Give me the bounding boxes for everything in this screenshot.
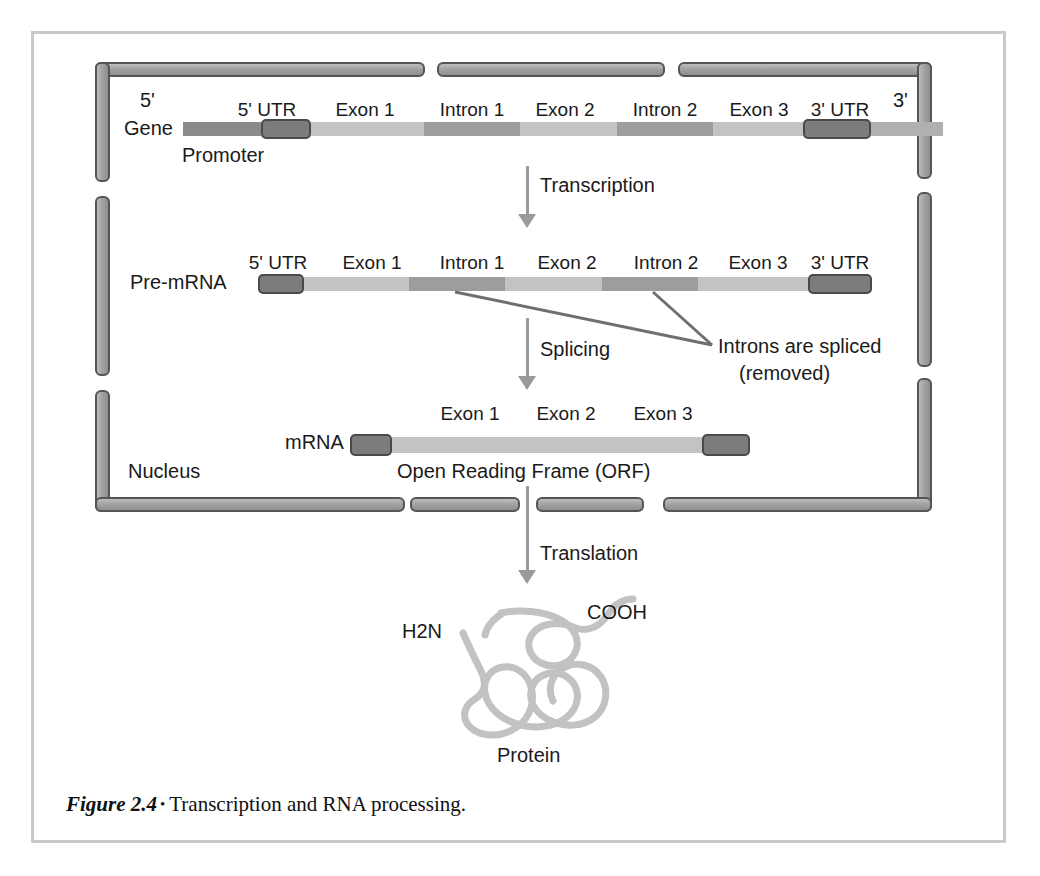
pre-mrna-segment-exon-2 — [505, 277, 602, 291]
nuclear-membrane-top-left — [95, 62, 425, 77]
gene-segment-exon-1 — [311, 122, 424, 136]
nuclear-membrane-right-mid — [917, 192, 932, 367]
nuclear-membrane-right-lower — [917, 378, 932, 512]
transcription-arrow-label: Transcription — [540, 175, 655, 195]
pre-mrna-segment-intron-1 — [409, 277, 505, 291]
pre-mrna-label-intron-2: Intron 2 — [618, 253, 714, 272]
pre-mrna-label-exon-3: Exon 3 — [713, 253, 803, 272]
mrna-segment-exon-3 — [624, 437, 702, 453]
translation-arrow-label: Translation — [540, 543, 638, 563]
gene-label-five-utr: 5' UTR — [227, 100, 307, 119]
nuclear-membrane-bottom-d — [663, 497, 932, 512]
figure-caption: Figure 2.4•Transcription and RNA process… — [66, 792, 966, 817]
splicing-arrow — [517, 318, 537, 390]
gene-five-prime-label: 5' — [140, 90, 155, 110]
pre-mrna-segment-exon-3 — [698, 277, 808, 291]
gene-segment-intron-2 — [617, 122, 713, 136]
mrna-segment-exon-2 — [532, 437, 624, 453]
nuclear-membrane-left-mid — [95, 196, 110, 376]
nucleus-label: Nucleus — [128, 461, 200, 481]
pre-mrna-label-exon-2: Exon 2 — [522, 253, 612, 272]
pre-mrna-segment-three-utr — [808, 274, 872, 294]
mrna-segment-exon-1 — [392, 437, 532, 453]
gene-label-intron-1: Intron 1 — [424, 100, 520, 119]
mrna-segment-five-utr — [350, 434, 392, 456]
pre-mrna-segment-exon-1 — [304, 277, 409, 291]
transcription-arrow — [517, 166, 537, 228]
pre-mrna-label-five-utr: 5' UTR — [238, 253, 318, 272]
gene-three-prime-label: 3' — [893, 90, 908, 110]
gene-segment-exon-2 — [520, 122, 617, 136]
orf-label: Open Reading Frame (ORF) — [397, 461, 650, 481]
nuclear-membrane-top-mid — [437, 62, 665, 77]
gene-segment-intron-1 — [424, 122, 520, 136]
mrna-segment-three-utr — [702, 434, 750, 456]
gene-segment-five-utr — [261, 119, 311, 139]
gene-bar — [183, 122, 943, 136]
mrna-bar — [350, 437, 750, 453]
caption-text: Transcription and RNA processing. — [169, 792, 466, 816]
figure-container: Nucleus 5' 3' Gene 5' UTR Exon 1 Intron … — [0, 0, 1040, 876]
splice-note-line-2: (removed) — [739, 363, 830, 383]
gene-segment-downstream — [871, 122, 943, 136]
protein-label: Protein — [497, 745, 560, 765]
gene-row-label: Gene — [124, 118, 173, 138]
protein-chain-icon — [455, 585, 685, 760]
gene-segment-promoter — [183, 122, 261, 136]
nuclear-membrane-bottom-c — [536, 497, 644, 512]
gene-label-three-utr: 3' UTR — [800, 100, 880, 119]
protein-c-terminus-label: COOH — [587, 602, 647, 622]
nuclear-membrane-bottom-b — [410, 497, 520, 512]
mrna-label-exon-2: Exon 2 — [521, 404, 611, 423]
gene-label-exon-2: Exon 2 — [520, 100, 610, 119]
pre-mrna-segment-intron-2 — [602, 277, 698, 291]
gene-label-exon-3: Exon 3 — [714, 100, 804, 119]
nuclear-membrane-left-upper — [95, 62, 110, 182]
mrna-label-exon-1: Exon 1 — [425, 404, 515, 423]
mrna-row-label: mRNA — [285, 432, 344, 452]
pre-mrna-bar — [258, 277, 872, 291]
pre-mrna-label-exon-1: Exon 1 — [327, 253, 417, 272]
gene-segment-three-utr — [803, 119, 871, 139]
gene-label-exon-1: Exon 1 — [320, 100, 410, 119]
pre-mrna-label-intron-1: Intron 1 — [424, 253, 520, 272]
splice-note-line-1: Introns are spliced — [718, 336, 881, 356]
protein-structure — [455, 585, 685, 760]
nuclear-membrane-top-right — [678, 62, 932, 77]
caption-bullet: • — [160, 796, 165, 812]
protein-n-terminus-label: H2N — [402, 621, 442, 641]
pre-mrna-row-label: Pre-mRNA — [130, 272, 227, 292]
figure-number: Figure 2.4 — [66, 792, 157, 816]
splicing-arrow-label: Splicing — [540, 339, 610, 359]
nuclear-membrane-left-lower — [95, 390, 110, 512]
pre-mrna-label-three-utr: 3' UTR — [800, 253, 880, 272]
translation-arrow — [517, 486, 537, 584]
nuclear-membrane-right-upper — [917, 62, 932, 179]
gene-label-intron-2: Intron 2 — [617, 100, 713, 119]
pre-mrna-segment-five-utr — [258, 274, 304, 294]
gene-segment-exon-3 — [713, 122, 803, 136]
nuclear-membrane-bottom-a — [95, 497, 405, 512]
mrna-label-exon-3: Exon 3 — [618, 404, 708, 423]
promoter-label: Promoter — [182, 145, 264, 165]
